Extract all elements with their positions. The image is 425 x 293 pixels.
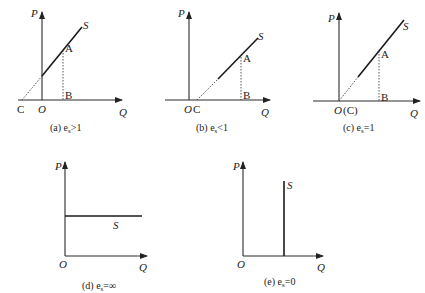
origin-label: O (184, 103, 192, 115)
supply-extension-dotted (197, 79, 218, 100)
point-a-label: A (381, 48, 389, 60)
panel-d: P Q S O (d) es=∞ (54, 160, 147, 293)
supply-label: S (113, 219, 119, 231)
axis-label-q: Q (317, 261, 325, 273)
supply-extension-dotted (339, 77, 358, 101)
point-a-label: A (65, 42, 73, 54)
caption: (c) es=1 (343, 122, 374, 135)
supply-elasticity-diagrams: P Q S A B O C (a) es>1 P Q S A B O C (b)… (0, 0, 425, 293)
panel-b: P Q S A B O C (b) es<1 (165, 7, 270, 135)
point-a-label: A (243, 52, 251, 64)
caption: (d) es=∞ (82, 280, 116, 293)
caption: (b) es<1 (196, 122, 228, 135)
panel-a: P Q S A B O C (a) es>1 (17, 7, 127, 135)
intercept-label: C (193, 103, 200, 115)
panel-c: P Q S A B O (C) (c) es=1 (313, 12, 420, 135)
origin-label: O (38, 103, 46, 115)
intercept-label: (C) (343, 104, 358, 117)
origin-label: O (59, 258, 67, 270)
axis-label-q: Q (139, 261, 147, 273)
caption: (a) es>1 (50, 122, 81, 135)
supply-curve (42, 27, 82, 76)
supply-label: S (403, 20, 409, 32)
supply-label: S (258, 30, 264, 42)
caption: (e) es=0 (264, 276, 295, 289)
axis-label-q: Q (410, 107, 418, 119)
axis-label-p: P (54, 160, 62, 172)
supply-label: S (287, 179, 293, 191)
origin-label: O (334, 104, 342, 116)
point-b-label: B (381, 91, 388, 103)
origin-label: O (237, 258, 245, 270)
axis-label-p: P (30, 7, 38, 19)
axis-label-q: Q (261, 106, 269, 118)
supply-extension-dotted (22, 76, 42, 100)
point-b-label: B (243, 89, 250, 101)
axis-label-p: P (232, 160, 240, 172)
axis-label-q: Q (119, 106, 127, 118)
intercept-label: C (17, 103, 24, 115)
axis-label-p: P (177, 7, 185, 19)
axis-label-p: P (327, 12, 335, 24)
panel-e: P Q S O (e) es=0 (232, 160, 325, 289)
supply-curve (218, 38, 258, 79)
point-b-label: B (65, 89, 72, 101)
supply-label: S (83, 19, 89, 31)
